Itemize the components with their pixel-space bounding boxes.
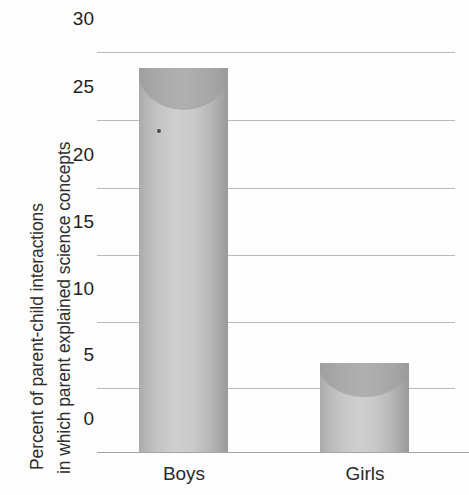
- bar-boys[interactable]: [139, 68, 228, 452]
- x-category-label-boys: Boys: [139, 463, 229, 485]
- y-tick-5: 5: [48, 344, 94, 366]
- y-axis-tick-labels: 30 25 20 15 10 5 0: [36, 18, 94, 458]
- gridline-30: [97, 52, 455, 53]
- plot-area: [97, 18, 469, 458]
- y-tick-10: 10: [48, 278, 94, 300]
- axis-baseline: [97, 452, 469, 453]
- y-tick-25: 25: [48, 76, 94, 98]
- y-tick-30: 30: [48, 8, 94, 30]
- bar-chart: Percent of parent-child interactions in …: [0, 0, 469, 495]
- bar-boys-body: [139, 68, 228, 452]
- y-tick-15: 15: [48, 211, 94, 233]
- bar-boys-top-cap: [139, 68, 228, 110]
- scan-speck-icon: [157, 129, 161, 133]
- y-tick-20: 20: [48, 144, 94, 166]
- bar-girls[interactable]: [320, 363, 409, 452]
- bar-girls-top-cap: [320, 363, 409, 397]
- x-category-label-girls: Girls: [320, 463, 410, 485]
- y-tick-0: 0: [48, 408, 94, 430]
